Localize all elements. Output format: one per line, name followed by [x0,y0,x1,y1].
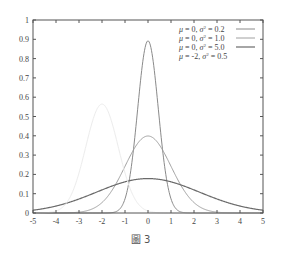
gaussian-chart: -5-4-3-2-1012345 00.10.20.30.40.50.60.70… [0,0,281,259]
y-tick-label: 0.9 [19,35,29,44]
x-tick-label: 4 [238,217,242,226]
y-tick-label: 0.7 [19,74,29,83]
x-tick-label: 0 [146,217,150,226]
x-tick-label: -3 [76,217,83,226]
x-tick-label: -1 [122,217,129,226]
series-line-2 [33,179,263,211]
y-tick-label: 0.6 [19,93,29,102]
x-axis: -5-4-3-2-1012345 [30,20,265,226]
x-tick-label: 1 [169,217,173,226]
y-axis: 00.10.20.30.40.50.60.70.80.91 [19,16,263,218]
y-tick-label: 0 [25,209,29,218]
series-line-3 [33,104,263,213]
legend-label: μ = 0, σ2 = 1.0 [178,34,225,43]
x-tick-label: -4 [53,217,60,226]
plot-frame [33,20,263,213]
y-tick-label: 0.3 [19,151,29,160]
legend-label: μ = 0, σ2 = 5.0 [178,43,225,52]
x-tick-label: 2 [192,217,196,226]
y-tick-label: 0.4 [19,132,29,141]
x-tick-label: -2 [99,217,106,226]
y-tick-label: 0.5 [19,113,29,122]
series-line-0 [33,41,263,213]
x-tick-label: 5 [261,217,265,226]
y-tick-label: 1 [25,16,29,25]
x-tick-label: -5 [30,217,37,226]
figure-caption: 圖 3 [0,231,281,246]
y-tick-label: 0.1 [19,190,29,199]
legend-label: μ = -2, σ2 = 0.5 [178,52,227,61]
legend: μ = 0, σ2 = 0.2μ = 0, σ2 = 1.0μ = 0, σ2 … [178,25,255,61]
legend-label: μ = 0, σ2 = 0.2 [178,25,225,34]
x-tick-label: 3 [215,217,219,226]
y-tick-label: 0.2 [19,170,29,179]
curves [33,41,263,213]
y-tick-label: 0.8 [19,55,29,64]
